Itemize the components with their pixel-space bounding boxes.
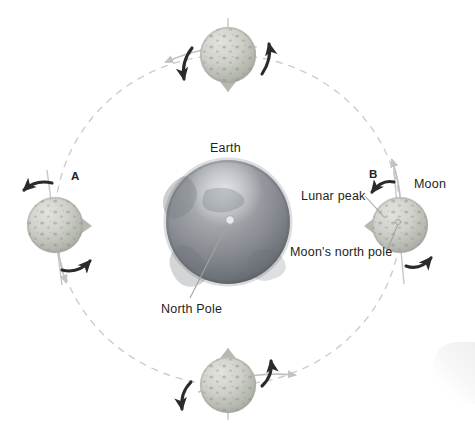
- moon-right-rotation-arrow-top: [372, 181, 394, 192]
- moon-right-rotation-arrow-bottom: [406, 258, 431, 267]
- diagram-canvas: Earth North Pole Moon Lunar peak Moon's …: [0, 0, 475, 432]
- moon-bottom-rotation-arrow-right: [262, 361, 271, 386]
- lunar-peak-label: Lunar peak: [301, 190, 366, 203]
- earth-body: [163, 160, 290, 287]
- earth-label: Earth: [210, 142, 241, 155]
- moons-north-pole-label: Moon's north pole: [290, 246, 392, 259]
- moon-top: [183, 18, 269, 92]
- moon-label: Moon: [414, 178, 446, 191]
- moon-bottom: [182, 348, 272, 420]
- moon-right-north-pole-dot: [395, 219, 400, 224]
- moon-left-rotation-arrow-bottom: [62, 261, 90, 271]
- orbit-diagram-svg: [0, 0, 475, 432]
- north-pole-label: North Pole: [161, 303, 222, 316]
- moon-bottom-rotation-arrow-left: [182, 382, 191, 409]
- moon-left-rotation-arrow-top: [24, 182, 52, 190]
- north-pole-dot: [226, 216, 234, 224]
- position-b-label: B: [369, 169, 378, 181]
- position-a-label: A: [71, 171, 80, 183]
